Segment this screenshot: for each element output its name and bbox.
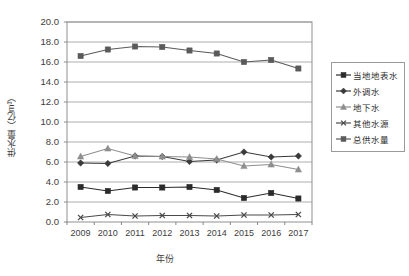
legend-label: 当地地表水	[352, 69, 398, 81]
legend-marker-icon	[335, 134, 352, 144]
legend-label: 其他水源	[352, 117, 389, 129]
legend-label: 地下水	[352, 101, 380, 113]
legend-marker-icon	[335, 70, 352, 80]
legend-item-2[interactable]: 地下水	[335, 99, 402, 115]
legend-label: 外调水	[352, 85, 380, 97]
legend-marker-icon	[335, 118, 352, 128]
chart-legend: 当地地表水外调水地下水其他水源总供水量	[331, 62, 405, 152]
legend-marker-icon	[335, 102, 352, 112]
legend-item-3[interactable]: 其他水源	[335, 115, 402, 131]
legend-item-1[interactable]: 外调水	[335, 83, 402, 99]
legend-item-4[interactable]: 总供水量	[335, 131, 402, 147]
legend-item-0[interactable]: 当地地表水	[335, 67, 402, 83]
legend-marker-icon	[335, 86, 352, 96]
supply-volume-line-chart: 供水量（亿m³） 年份 0.02.04.06.08.010.012.014.01…	[0, 0, 409, 276]
legend-label: 总供水量	[352, 133, 389, 145]
